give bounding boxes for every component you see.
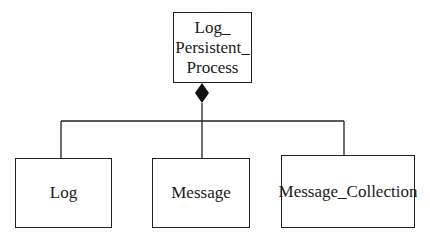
class-name: Message_Collection: [279, 182, 418, 202]
class-name-line-3: Process: [175, 58, 250, 78]
composition-diamond-icon: [195, 83, 209, 103]
class-name: Log: [50, 183, 77, 203]
class-log-persistent-process: Log_ Persistent_ Process: [173, 12, 252, 83]
class-name-line-2: Persistent_: [175, 38, 250, 58]
class-name: Message: [171, 183, 230, 203]
class-message-collection: Message_Collection: [281, 155, 415, 228]
class-log: Log: [15, 158, 112, 228]
class-name-line-1: Log_: [175, 18, 250, 38]
class-message: Message: [152, 158, 250, 228]
